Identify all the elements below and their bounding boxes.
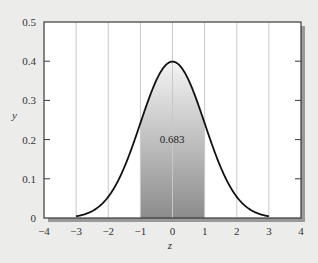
y-tick-label: 0.1 bbox=[22, 173, 36, 185]
x-tick-label: 0 bbox=[170, 225, 176, 237]
plot-area bbox=[44, 22, 305, 222]
normal-distribution-chart: 00.10.20.30.40.5−4−3−2−101234 y z 0.683 bbox=[0, 0, 318, 263]
y-tick-label: 0.4 bbox=[22, 55, 36, 67]
y-tick-label: 0.3 bbox=[22, 94, 36, 106]
x-tick-label: 4 bbox=[298, 225, 304, 237]
x-tick-label: 3 bbox=[266, 225, 272, 237]
x-tick-label: 2 bbox=[234, 225, 240, 237]
x-tick-label: 1 bbox=[202, 225, 208, 237]
y-axis-label: y bbox=[11, 109, 17, 121]
x-tick-label: −2 bbox=[102, 225, 114, 237]
x-tick-label: −3 bbox=[70, 225, 82, 237]
shaded-area-label: 0.683 bbox=[160, 133, 185, 145]
x-tick-label: −4 bbox=[38, 225, 50, 237]
y-tick-label: 0.5 bbox=[22, 16, 36, 28]
y-tick-label: 0.2 bbox=[22, 134, 36, 146]
x-axis-label: z bbox=[167, 239, 173, 251]
y-tick-label: 0 bbox=[31, 212, 37, 224]
x-tick-label: −1 bbox=[135, 225, 147, 237]
